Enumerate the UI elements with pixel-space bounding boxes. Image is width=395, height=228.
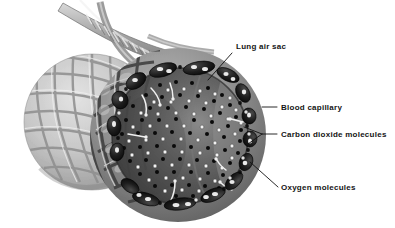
- label-lung-air-sac: Lung air sac: [236, 42, 286, 51]
- label-carbon-dioxide-molecules: Carbon dioxide molecules: [281, 130, 387, 139]
- diagram-canvas: Lung air sac Blood capillary Carbon diox…: [0, 0, 395, 228]
- label-blood-capillary: Blood capillary: [281, 103, 342, 112]
- label-oxygen-molecules: Oxygen molecules: [281, 183, 356, 192]
- alveolus-diagram: Lung air sac Blood capillary Carbon diox…: [0, 0, 395, 228]
